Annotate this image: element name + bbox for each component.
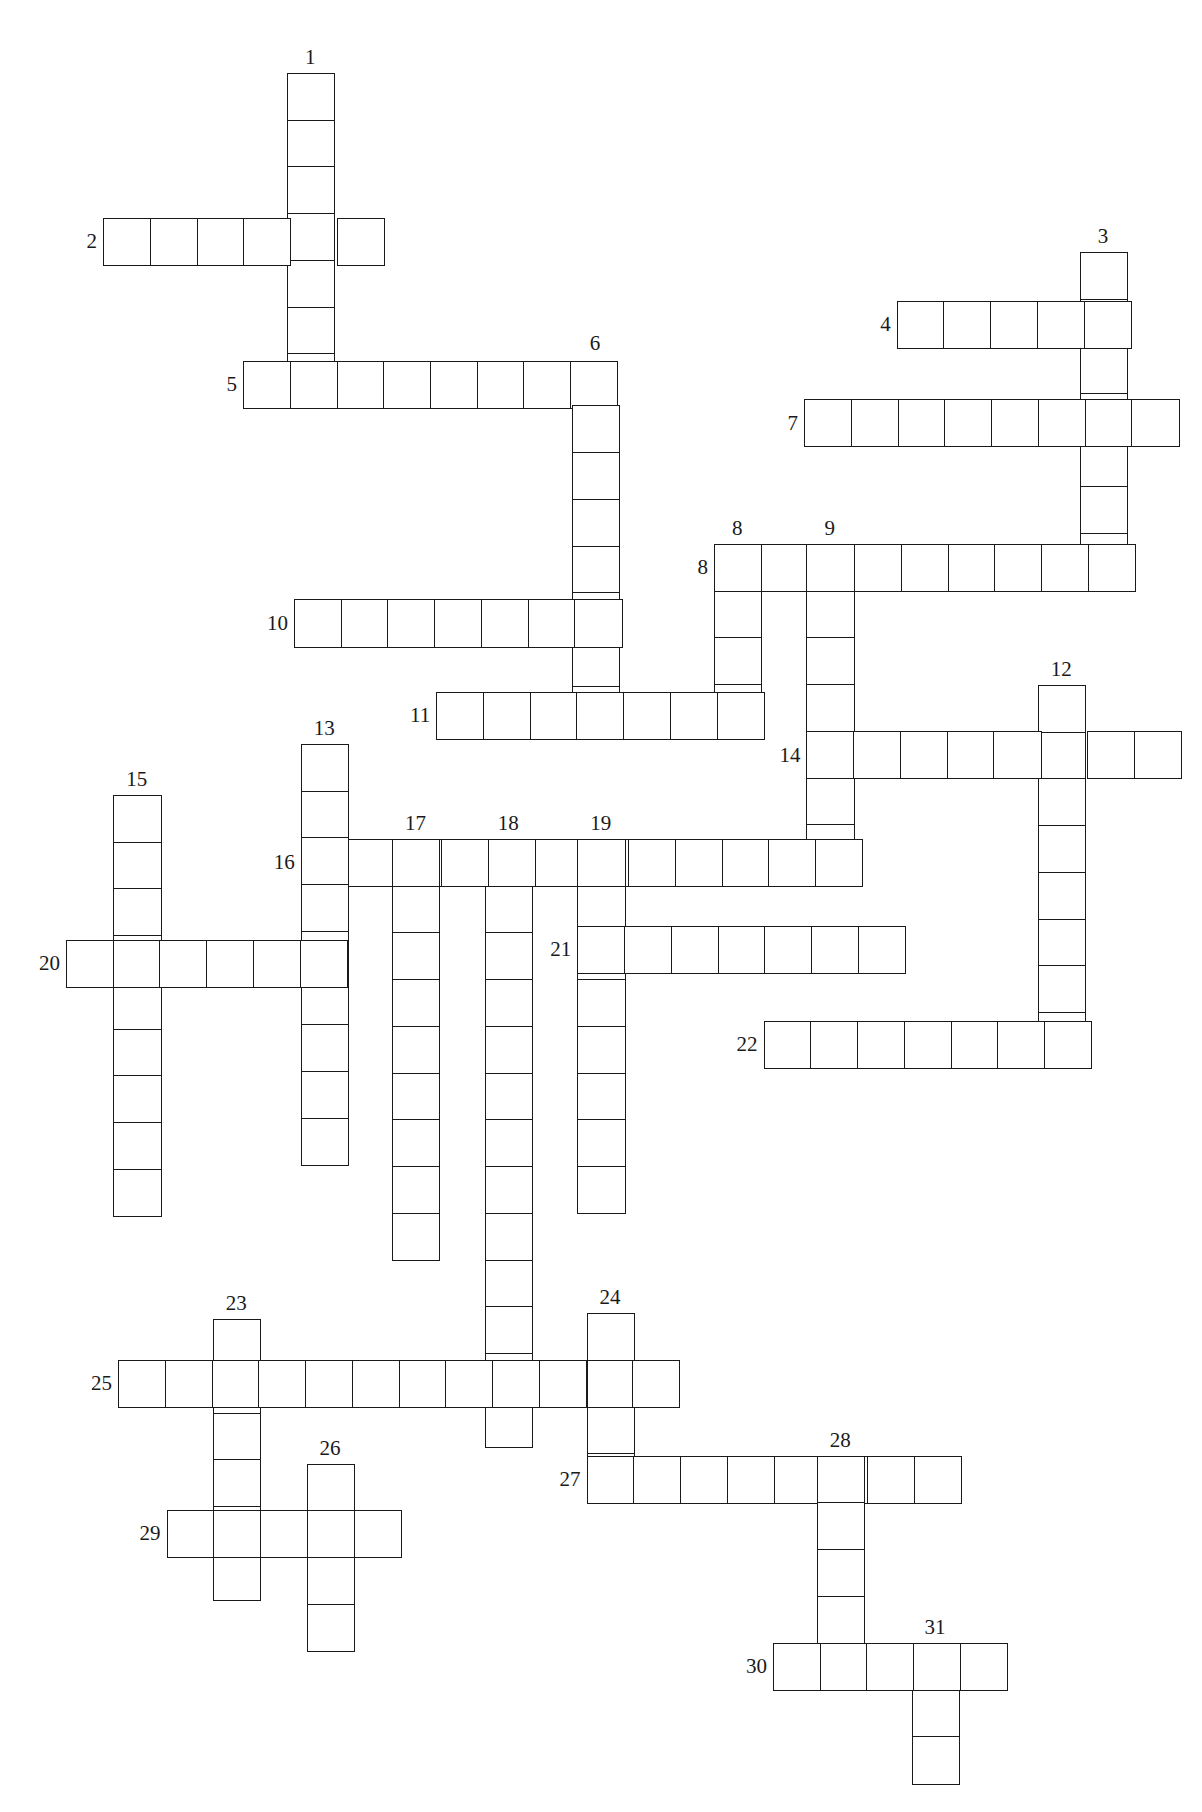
crossword-cell[interactable] [253, 940, 301, 988]
crossword-cell[interactable] [943, 301, 991, 349]
crossword-cell[interactable] [948, 544, 996, 592]
crossword-cell[interactable] [492, 1360, 540, 1408]
crossword-cell[interactable] [670, 692, 718, 740]
crossword-cell[interactable] [1038, 965, 1086, 1013]
crossword-cell[interactable] [572, 405, 620, 453]
crossword-cell[interactable] [392, 1119, 440, 1167]
crossword-cell[interactable] [806, 637, 854, 685]
crossword-cell[interactable] [577, 839, 625, 887]
crossword-cell[interactable] [485, 1026, 533, 1074]
crossword-cell[interactable] [485, 979, 533, 1027]
crossword-cell[interactable] [717, 692, 765, 740]
crossword-cell[interactable] [392, 1073, 440, 1121]
crossword-cell[interactable] [811, 926, 859, 974]
crossword-cell[interactable] [113, 982, 161, 1030]
crossword-cell[interactable] [488, 839, 536, 887]
crossword-cell[interactable] [485, 932, 533, 980]
crossword-cell[interactable] [714, 637, 762, 685]
crossword-cell[interactable] [624, 926, 672, 974]
crossword-cell[interactable] [301, 884, 349, 932]
crossword-cell[interactable] [113, 1169, 161, 1217]
crossword-cell[interactable] [997, 1021, 1045, 1069]
crossword-cell[interactable] [485, 1306, 533, 1354]
crossword-cell[interactable] [1080, 252, 1128, 300]
crossword-cell[interactable] [577, 1166, 625, 1214]
crossword-cell[interactable] [1038, 778, 1086, 826]
crossword-cell[interactable] [914, 1456, 962, 1504]
crossword-cell[interactable] [1041, 544, 1089, 592]
crossword-cell[interactable] [912, 1690, 960, 1738]
crossword-cell[interactable] [764, 926, 812, 974]
crossword-cell[interactable] [392, 1026, 440, 1074]
crossword-cell[interactable] [197, 218, 245, 266]
crossword-cell[interactable] [337, 218, 385, 266]
crossword-cell[interactable] [167, 1510, 215, 1558]
crossword-cell[interactable] [671, 926, 719, 974]
crossword-cell[interactable] [817, 1596, 865, 1644]
crossword-cell[interactable] [1084, 301, 1132, 349]
crossword-cell[interactable] [572, 546, 620, 594]
crossword-cell[interactable] [904, 1021, 952, 1069]
crossword-cell[interactable] [305, 1360, 353, 1408]
crossword-cell[interactable] [587, 1360, 635, 1408]
crossword-cell[interactable] [806, 684, 854, 732]
crossword-cell[interactable] [572, 452, 620, 500]
crossword-cell[interactable] [66, 940, 114, 988]
crossword-cell[interactable] [485, 1260, 533, 1308]
crossword-cell[interactable] [722, 839, 770, 887]
crossword-cell[interactable] [577, 926, 625, 974]
crossword-cell[interactable] [587, 1407, 635, 1455]
crossword-cell[interactable] [118, 1360, 166, 1408]
crossword-cell[interactable] [991, 399, 1039, 447]
crossword-cell[interactable] [354, 1510, 402, 1558]
crossword-cell[interactable] [213, 1553, 261, 1601]
crossword-cell[interactable] [445, 1360, 493, 1408]
crossword-cell[interactable] [773, 1643, 821, 1691]
crossword-cell[interactable] [485, 1166, 533, 1214]
crossword-cell[interactable] [213, 1459, 261, 1507]
crossword-cell[interactable] [897, 301, 945, 349]
crossword-cell[interactable] [727, 1456, 775, 1504]
crossword-cell[interactable] [572, 499, 620, 547]
crossword-cell[interactable] [1037, 301, 1085, 349]
crossword-cell[interactable] [853, 731, 901, 779]
crossword-cell[interactable] [804, 399, 852, 447]
crossword-cell[interactable] [206, 940, 254, 988]
crossword-cell[interactable] [528, 599, 576, 647]
crossword-cell[interactable] [301, 744, 349, 792]
crossword-cell[interactable] [851, 399, 899, 447]
crossword-cell[interactable] [294, 599, 342, 647]
crossword-cell[interactable] [587, 1456, 635, 1504]
crossword-cell[interactable] [587, 1313, 635, 1361]
crossword-cell[interactable] [817, 1549, 865, 1597]
crossword-cell[interactable] [287, 260, 335, 308]
crossword-cell[interactable] [337, 361, 385, 409]
crossword-cell[interactable] [392, 1213, 440, 1261]
crossword-cell[interactable] [307, 1604, 355, 1652]
crossword-cell[interactable] [810, 1021, 858, 1069]
crossword-cell[interactable] [485, 1073, 533, 1121]
crossword-cell[interactable] [436, 692, 484, 740]
crossword-cell[interactable] [301, 837, 349, 885]
crossword-cell[interactable] [441, 839, 489, 887]
crossword-cell[interactable] [287, 73, 335, 121]
crossword-cell[interactable] [570, 361, 618, 409]
crossword-cell[interactable] [258, 1360, 306, 1408]
crossword-cell[interactable] [898, 399, 946, 447]
crossword-cell[interactable] [960, 1643, 1008, 1691]
crossword-cell[interactable] [1080, 346, 1128, 394]
crossword-cell[interactable] [539, 1360, 587, 1408]
crossword-cell[interactable] [774, 1456, 822, 1504]
crossword-cell[interactable] [290, 361, 338, 409]
crossword-cell[interactable] [623, 692, 671, 740]
crossword-cell[interactable] [341, 599, 389, 647]
crossword-cell[interactable] [913, 1643, 961, 1691]
crossword-cell[interactable] [761, 544, 809, 592]
crossword-cell[interactable] [806, 544, 854, 592]
crossword-cell[interactable] [113, 795, 161, 843]
crossword-cell[interactable] [944, 399, 992, 447]
crossword-cell[interactable] [1038, 399, 1086, 447]
crossword-cell[interactable] [912, 1736, 960, 1784]
crossword-cell[interactable] [947, 731, 995, 779]
crossword-cell[interactable] [632, 1360, 680, 1408]
